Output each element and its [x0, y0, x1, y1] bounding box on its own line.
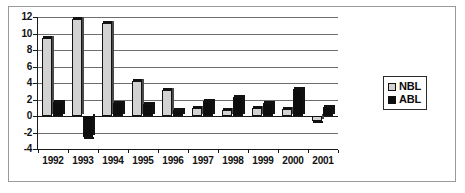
y-tick-label: 8 [2, 45, 32, 55]
bar-side [123, 101, 125, 114]
bar-abl-2001 [323, 107, 333, 116]
plot-area [38, 17, 338, 149]
bar-face [132, 81, 142, 116]
bar-nbl-1996 [162, 90, 172, 116]
bar-side [273, 101, 275, 114]
bar-top-cap [313, 121, 323, 123]
bar-nbl-1997 [192, 108, 202, 116]
legend-swatch-nbl [388, 83, 396, 91]
bar-side [243, 95, 245, 114]
x-tick-label: 1998 [218, 155, 248, 166]
x-tick-mark [338, 150, 339, 153]
y-tick-label: 6 [2, 62, 32, 72]
y-tick-label: 0 [2, 111, 32, 121]
bar-face [323, 107, 333, 116]
y-tick-label: -2 [2, 128, 32, 138]
bar-nbl-1994 [102, 23, 112, 116]
bar-abl-1993 [83, 116, 93, 137]
x-tick-label: 1999 [248, 155, 278, 166]
bar-nbl-1999 [252, 108, 262, 116]
bar-chart-figure: 121086420-2-4 19921993199419951996199719… [0, 0, 465, 193]
y-tick-mark [33, 17, 37, 18]
bar-face [293, 89, 303, 116]
x-tick-label: 1997 [188, 155, 218, 166]
bar-abl-1999 [263, 103, 273, 116]
x-tick-mark [308, 150, 309, 153]
bar-face [53, 102, 63, 116]
y-tick-mark [33, 116, 37, 117]
y-tick-mark [33, 149, 37, 150]
legend-swatch-abl [388, 96, 396, 104]
bar-nbl-2001 [312, 116, 322, 121]
x-tick-mark [278, 150, 279, 153]
bar-nbl-1995 [132, 81, 142, 116]
bar-face [252, 108, 262, 116]
bar-side [93, 114, 95, 135]
legend-label-abl: ABL [399, 94, 421, 105]
x-tick-mark [128, 150, 129, 153]
bar-nbl-1993 [72, 19, 82, 116]
x-tick-mark [158, 150, 159, 153]
bar-top-cap [84, 137, 94, 139]
y-tick-label: 4 [2, 78, 32, 88]
bar-abl-1994 [113, 103, 123, 116]
bar-side [153, 102, 155, 114]
bar-abl-1995 [143, 104, 153, 116]
bar-abl-1997 [203, 101, 213, 116]
bar-abl-2000 [293, 89, 303, 116]
x-tick-label: 1994 [98, 155, 128, 166]
x-tick-mark [218, 150, 219, 153]
y-tick-mark [33, 100, 37, 101]
x-tick-label: 1992 [38, 155, 68, 166]
x-tick-mark [98, 150, 99, 153]
x-tick-mark [188, 150, 189, 153]
y-axis-labels: 121086420-2-4 [0, 0, 32, 193]
bar-abl-1998 [233, 97, 243, 116]
bar-nbl-2000 [282, 109, 292, 116]
y-tick-mark [33, 67, 37, 68]
x-tick-label: 2001 [308, 155, 338, 166]
x-tick-mark [38, 150, 39, 153]
bar-face [113, 103, 123, 116]
x-tick-label: 1995 [128, 155, 158, 166]
y-tick-mark [33, 50, 37, 51]
y-tick-mark [33, 133, 37, 134]
x-tick-mark [68, 150, 69, 153]
x-tick-label: 2000 [278, 155, 308, 166]
chart-legend: NBL ABL [383, 76, 427, 110]
bar-side [82, 17, 84, 114]
bar-face [203, 101, 213, 116]
bar-face [192, 108, 202, 116]
bar-face [162, 90, 172, 116]
bar-face [42, 38, 52, 116]
bar-side [303, 87, 305, 114]
bar-face [222, 110, 232, 116]
bar-face [282, 109, 292, 116]
legend-entry-abl: ABL [388, 93, 421, 106]
bar-face [173, 110, 183, 116]
bar-nbl-1992 [42, 38, 52, 116]
bar-face [233, 97, 243, 116]
bar-face [83, 116, 93, 137]
legend-label-nbl: NBL [399, 81, 421, 92]
x-tick-label: 1993 [68, 155, 98, 166]
bar-side [213, 99, 215, 114]
bar-abl-1992 [53, 102, 63, 116]
bar-side [63, 100, 65, 114]
x-tick-label: 1996 [158, 155, 188, 166]
bar-face [143, 104, 153, 116]
legend-entry-nbl: NBL [388, 80, 421, 93]
bar-face [263, 103, 273, 116]
y-tick-label: 2 [2, 95, 32, 105]
y-tick-mark [33, 34, 37, 35]
bar-abl-1996 [173, 110, 183, 116]
bar-nbl-1998 [222, 110, 232, 116]
y-tick-label: 12 [2, 12, 32, 22]
bar-side [183, 108, 185, 114]
bar-face [72, 19, 82, 116]
y-tick-label: -4 [2, 144, 32, 154]
bar-side [333, 105, 335, 114]
x-tick-mark [248, 150, 249, 153]
y-tick-mark [33, 83, 37, 84]
y-tick-label: 10 [2, 29, 32, 39]
